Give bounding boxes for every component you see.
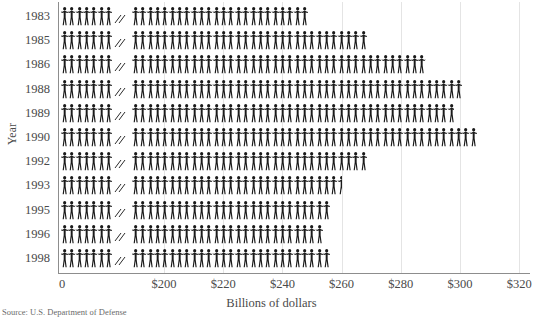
bar-segment-main [132,54,427,74]
y-axis-tick-label: 1986 [0,54,50,74]
bar-row: 1992 [58,151,530,171]
axis-break-marker [114,79,127,99]
bar-segment-main [132,224,324,244]
y-axis-tick-label: 1985 [0,30,50,50]
bar-segment-stub [61,30,113,50]
axis-break-marker [114,248,127,268]
bar-segment-stub [61,79,113,99]
y-axis-tick-label: 1983 [0,6,50,26]
x-axis-tick-label: $320 [484,277,543,292]
bar-segment-stub [61,54,113,74]
bar-segment-main [132,248,333,268]
y-axis-tick-label: 1992 [0,151,50,171]
axis-break-marker [114,127,127,147]
bar-segment-stub [61,248,113,268]
axis-break-marker [114,6,127,26]
y-axis-tick-label: 1995 [0,200,50,220]
axis-break-marker [114,224,127,244]
bar-row: 1995 [58,200,530,220]
axis-break-marker [114,200,127,220]
bar-segment-main [132,200,330,220]
bar-segment-stub [61,103,113,123]
bar-row: 1983 [58,6,530,26]
y-axis-tick-label: 1996 [0,224,50,244]
bar-row: 1985 [58,30,530,50]
y-axis-tick-label: 1993 [0,175,50,195]
bar-segment-main [132,175,342,195]
bar-segment-main [132,151,368,171]
bar-segment-stub [61,6,113,26]
bar-row: 1998 [58,248,530,268]
axis-break-marker [114,54,127,74]
y-axis-tick-label: 1998 [0,248,50,268]
bar-row: 1990 [58,127,530,147]
bar-segment-main [132,79,466,99]
bar-row: 1996 [58,224,530,244]
bar-segment-stub [61,175,113,195]
axis-break-marker [114,151,127,171]
bar-row: 1986 [58,54,530,74]
axis-break-marker [114,103,127,123]
bar-row: 1989 [58,103,530,123]
bar-segment-main [132,6,309,26]
x-axis-tick-label: 0 [27,277,97,292]
axis-break-marker [114,175,127,195]
bar-segment-main [132,127,478,147]
bar-segment-stub [61,127,113,147]
x-axis-line [58,273,530,274]
axis-break-marker [114,30,127,50]
bar-row: 1988 [58,79,530,99]
bar-segment-stub [61,151,113,171]
bar-segment-stub [61,224,113,244]
y-axis-tick-label: 1990 [0,127,50,147]
bar-segment-stub [61,200,113,220]
y-axis-tick-label: 1988 [0,79,50,99]
y-axis-tick-label: 1989 [0,103,50,123]
bar-segment-main [132,103,454,123]
bar-segment-main [132,30,368,50]
plot-area: 1983198519861988198919901992199319951996… [58,2,530,273]
bar-row: 1993 [58,175,530,195]
source-note: Source: U.S. Department of Defense [2,307,127,317]
